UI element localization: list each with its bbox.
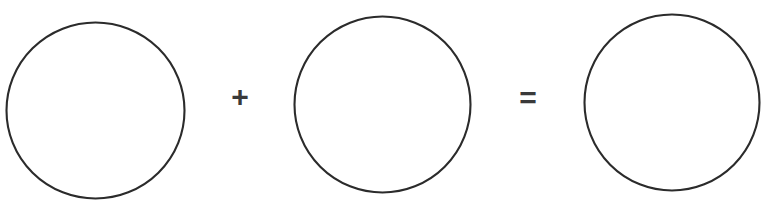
circle-three [585,15,760,191]
plus-operator-icon: + [222,80,258,114]
circle-two [295,17,471,193]
circles-svg [0,0,769,202]
equals-operator-icon: = [510,81,546,115]
circle-one [7,23,185,199]
diagram-canvas: + = [0,0,769,202]
